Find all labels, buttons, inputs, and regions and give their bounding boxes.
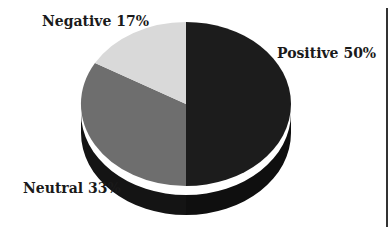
label-neutral: Neutral 33% xyxy=(23,180,121,196)
label-positive: Positive 50% xyxy=(277,45,376,61)
frame-border xyxy=(386,8,388,227)
label-negative: Negative 17% xyxy=(42,13,149,29)
